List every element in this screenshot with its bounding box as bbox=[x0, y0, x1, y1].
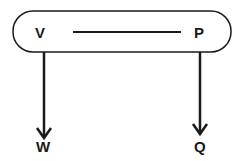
node-p-label: P bbox=[194, 25, 204, 40]
node-w-label: W bbox=[36, 139, 50, 154]
arrow-v-to-w bbox=[37, 52, 51, 138]
node-v-label: V bbox=[35, 25, 45, 40]
node-q-label: Q bbox=[194, 139, 206, 154]
arrow-p-to-q bbox=[193, 52, 207, 134]
